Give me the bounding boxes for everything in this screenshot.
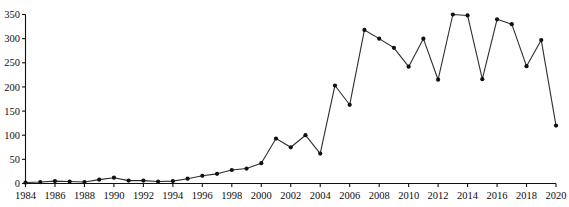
data-point-marker (156, 179, 160, 183)
y-axis (22, 15, 26, 184)
y-tick-label: 250 (4, 57, 20, 68)
line-chart: 050100150200250300350 198419861988199019… (0, 0, 569, 207)
x-tick-label: 2008 (369, 190, 390, 201)
x-tick-label: 2004 (310, 190, 332, 201)
data-point-marker (421, 37, 425, 41)
data-point-marker (554, 123, 558, 127)
data-point-marker (97, 178, 101, 182)
data-point-marker (303, 133, 307, 137)
y-tick-label: 0 (15, 178, 20, 189)
data-point-marker (465, 13, 469, 17)
x-tick-label: 2006 (339, 190, 360, 201)
y-tick-label: 50 (10, 154, 21, 165)
data-point-marker (436, 78, 440, 82)
data-point-marker (377, 37, 381, 41)
x-tick-label: 1994 (162, 190, 184, 201)
x-tick-label: 2010 (398, 190, 419, 201)
data-point-marker (127, 179, 131, 183)
data-point-marker (451, 12, 455, 16)
x-tick-label: 1998 (221, 190, 242, 201)
data-series (23, 12, 558, 184)
x-tick-label: 2002 (280, 190, 301, 201)
data-point-marker (392, 46, 396, 50)
data-point-marker (68, 179, 72, 183)
data-point-marker (524, 64, 528, 68)
x-tick-label: 1990 (103, 190, 124, 201)
data-point-marker (495, 17, 499, 21)
data-point-marker (38, 180, 42, 184)
data-point-marker (230, 168, 234, 172)
data-point-marker (23, 180, 27, 184)
y-tick-label: 350 (4, 9, 20, 20)
x-tick-label: 1996 (192, 190, 213, 201)
data-point-marker (244, 166, 248, 170)
x-axis (26, 184, 557, 188)
data-point-marker (53, 179, 57, 183)
x-tick-label: 1988 (74, 190, 95, 201)
data-point-marker (112, 176, 116, 180)
x-tick-label: 2016 (487, 190, 508, 201)
x-tick-label: 1992 (133, 190, 154, 201)
data-point-marker (82, 180, 86, 184)
y-tick-label: 150 (4, 106, 20, 117)
data-point-marker (215, 172, 219, 176)
data-point-marker (407, 65, 411, 69)
x-tick-labels: 1984198619881990199219941996199820002002… (15, 190, 567, 201)
data-point-marker (200, 174, 204, 178)
x-tick-label: 1984 (15, 190, 37, 201)
data-point-marker (539, 38, 543, 42)
x-tick-label: 2012 (428, 190, 449, 201)
y-tick-label: 100 (4, 130, 20, 141)
series-line (26, 15, 557, 183)
y-tick-labels: 050100150200250300350 (4, 9, 20, 189)
data-point-marker (289, 145, 293, 149)
x-tick-label: 2014 (457, 190, 479, 201)
data-point-marker (348, 103, 352, 107)
y-tick-label: 300 (4, 33, 20, 44)
y-tick-label: 200 (4, 82, 20, 93)
data-point-marker (510, 22, 514, 26)
x-tick-label: 2018 (516, 190, 537, 201)
data-point-marker (186, 177, 190, 181)
x-tick-label: 1986 (44, 190, 65, 201)
data-point-marker (259, 161, 263, 165)
data-point-marker (171, 179, 175, 183)
data-point-marker (362, 28, 366, 32)
chart-plot-area: 050100150200250300350 198419861988199019… (0, 0, 569, 207)
x-tick-label: 2020 (546, 190, 567, 201)
x-tick-label: 2000 (251, 190, 272, 201)
data-point-marker (318, 151, 322, 155)
data-point-marker (333, 83, 337, 87)
data-point-marker (141, 179, 145, 183)
data-point-marker (274, 136, 278, 140)
data-point-marker (480, 77, 484, 81)
